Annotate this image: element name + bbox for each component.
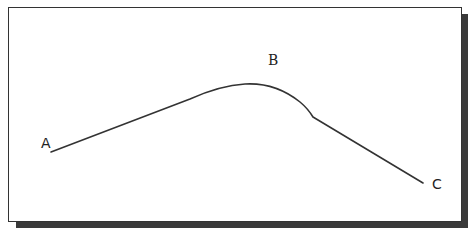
point-label-a: A — [41, 136, 51, 150]
point-label-b: B — [268, 53, 278, 67]
curve-path — [51, 84, 423, 183]
curve-abc — [0, 0, 470, 235]
point-label-c: C — [432, 177, 442, 191]
